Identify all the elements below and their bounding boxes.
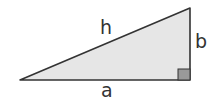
right-angle-marker (178, 69, 190, 80)
right-triangle-diagram: h b a (0, 0, 220, 107)
label-vertical-leg: b (195, 30, 207, 52)
label-hypotenuse: h (100, 16, 112, 38)
label-horizontal-leg: a (101, 79, 113, 101)
